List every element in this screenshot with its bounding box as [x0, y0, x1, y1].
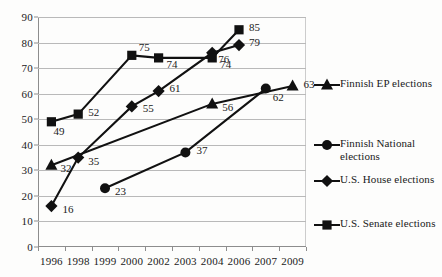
x-tick-label-2002: 2002: [147, 255, 170, 267]
y-tick-label-20: 20: [22, 190, 33, 202]
data-point-marker-circle: [180, 147, 190, 157]
x-tick-mark-5: [172, 247, 173, 251]
series-line: [51, 45, 239, 206]
data-point-label: 75: [139, 41, 151, 53]
data-point-label: 49: [53, 125, 65, 137]
series-layer: 325663233762163555617679495275747485: [38, 17, 306, 247]
legend-key-diamond-icon: [314, 175, 340, 187]
data-point-label: 16: [62, 203, 74, 215]
legend-marker-circle-icon: [314, 139, 340, 151]
legend-item-label: U.S. House elections: [340, 173, 434, 186]
y-tick-label-90: 90: [22, 11, 33, 23]
legend-marker-diamond-icon: [314, 175, 340, 187]
legend-item-finnish-national-elections[interactable]: Finnish National elections: [314, 137, 440, 162]
data-point-marker-triangle: [287, 80, 299, 91]
data-point-marker-square: [74, 110, 83, 119]
data-point-label: 52: [88, 106, 99, 118]
legend-item-label: U.S. Senate elections: [340, 217, 436, 230]
data-point-marker-square: [154, 53, 163, 62]
legend-marker-square-icon: [314, 219, 340, 231]
data-point-marker-circle: [100, 183, 110, 193]
x-tick-mark-10: [306, 247, 307, 251]
legend-key-square-icon: [314, 219, 340, 231]
y-tick-label-10: 10: [22, 215, 33, 227]
data-point-marker-diamond: [233, 39, 245, 51]
data-point-marker-diamond: [45, 200, 57, 212]
y-tick-label-60: 60: [22, 88, 33, 100]
x-tick-label-2006: 2006: [228, 255, 251, 267]
y-tick-label-80: 80: [22, 37, 33, 49]
data-point-label: 35: [88, 155, 100, 167]
y-tick-label-30: 30: [22, 164, 33, 176]
x-tick-label-2000: 2000: [120, 255, 143, 267]
x-tick-label-2003: 2003: [174, 255, 197, 267]
data-point-marker-square: [127, 51, 136, 60]
data-point-label: 79: [249, 36, 261, 48]
data-point-marker-square: [208, 53, 217, 62]
x-tick-mark-0: [38, 247, 39, 251]
x-tick-mark-1: [65, 247, 66, 251]
legend-item-label: Finnish EP elections: [340, 77, 432, 90]
x-tick-label-1998: 1998: [67, 255, 90, 267]
data-point-marker-square: [234, 25, 243, 34]
y-tick-label-0: 0: [27, 241, 33, 253]
x-tick-label-2009: 2009: [281, 255, 304, 267]
data-point-marker-circle: [261, 84, 271, 94]
series-line: [51, 86, 292, 165]
legend-marker-triangle-icon: [314, 79, 340, 91]
data-point-label: 56: [222, 101, 234, 113]
legend-item-finnish-ep-elections[interactable]: Finnish EP elections: [314, 77, 432, 91]
data-point-label: 85: [249, 21, 261, 33]
data-point-label: 37: [196, 144, 208, 156]
legend-key-circle-icon: [314, 139, 340, 151]
data-point-label: 55: [143, 102, 155, 114]
line-chart: 0102030405060708090 19961998199920002002…: [0, 0, 442, 277]
x-tick-mark-9: [279, 247, 280, 251]
plot-area: 0102030405060708090 19961998199920002002…: [38, 17, 306, 247]
x-tick-mark-2: [92, 247, 93, 251]
y-tick-label-40: 40: [22, 139, 33, 151]
legend-key-triangle-icon: [314, 79, 340, 91]
y-tick-label-70: 70: [22, 62, 33, 74]
legend-item-label: Finnish National elections: [340, 137, 440, 162]
data-point-label: 74: [167, 58, 179, 70]
data-point-label: 62: [273, 91, 284, 103]
x-tick-label-1996: 1996: [40, 255, 63, 267]
series-finnish-national-elections: 233762: [100, 84, 284, 198]
x-tick-label-2004: 2004: [201, 255, 224, 267]
data-point-label: 61: [170, 82, 181, 94]
x-tick-mark-7: [226, 247, 227, 251]
data-point-label: 23: [115, 185, 127, 197]
x-tick-mark-4: [145, 247, 146, 251]
x-tick-label-1999: 1999: [94, 255, 117, 267]
x-tick-mark-8: [252, 247, 253, 251]
x-tick-mark-3: [118, 247, 119, 251]
legend-item-u-s-senate-elections[interactable]: U.S. Senate elections: [314, 217, 436, 231]
x-tick-label-2007: 2007: [254, 255, 277, 267]
y-tick-label-50: 50: [22, 113, 33, 125]
data-point-label: 74: [220, 58, 232, 70]
x-tick-mark-6: [199, 247, 200, 251]
legend-item-u-s-house-elections[interactable]: U.S. House elections: [314, 173, 434, 187]
